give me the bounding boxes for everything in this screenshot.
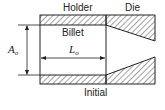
length-arrow-right — [100, 56, 105, 60]
initial-label: Initial — [84, 88, 107, 98]
holder-bottom-wall — [40, 75, 106, 84]
length-label: Lo — [69, 44, 79, 57]
area-label: Ao — [8, 44, 18, 57]
billet-label: Billet — [62, 28, 84, 38]
extrusion-diagram: Holder Die Billet Initial Ao Lo — [0, 0, 165, 110]
area-arrow-bottom — [25, 70, 29, 75]
holder-top-wall — [40, 15, 106, 25]
length-subscript: o — [75, 49, 79, 57]
area-subscript: o — [15, 49, 19, 57]
length-arrow-left — [41, 56, 46, 60]
holder-label: Holder — [63, 3, 92, 13]
extrusion-drawing — [0, 0, 165, 110]
die-label: Die — [125, 3, 140, 13]
area-symbol: A — [8, 43, 15, 55]
die-bottom-wedge — [106, 57, 155, 84]
area-arrow-top — [25, 25, 29, 30]
die-top-wedge — [106, 15, 155, 41]
